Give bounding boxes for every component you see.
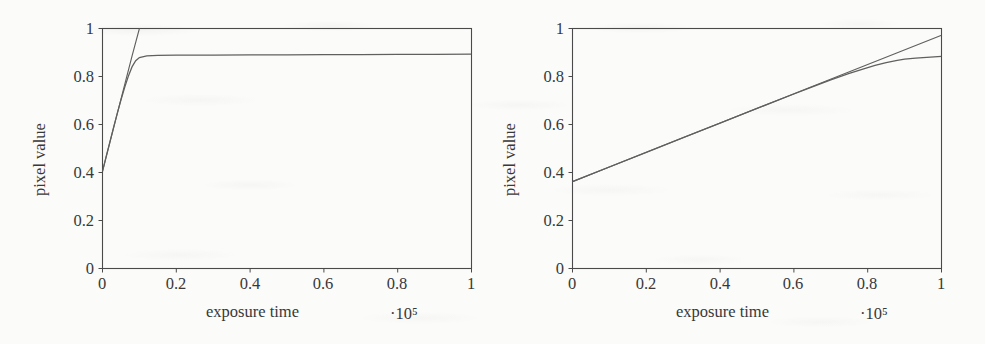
y-tick-label: 0.4 xyxy=(516,165,564,182)
y-axis-title: pixel value xyxy=(502,123,519,196)
series-line-saturating xyxy=(103,54,472,171)
x-tick-label: 0.4 xyxy=(700,276,740,293)
x-tick-label: 0.2 xyxy=(156,276,196,293)
x-tick-label: 1 xyxy=(451,276,491,293)
x-tick-label: 0.4 xyxy=(230,276,270,293)
axis-ticks xyxy=(99,29,472,273)
axis-frame xyxy=(573,29,942,269)
y-tick-label: 0.8 xyxy=(516,69,564,86)
y-tick-label: 0.2 xyxy=(516,213,564,230)
y-tick-label: 0.2 xyxy=(46,213,94,230)
figure-page: 1 0.8 0.6 0.4 0.2 0 0 0.2 0.4 0.6 0.8 1 … xyxy=(0,0,985,344)
x-tick-label: 0.6 xyxy=(773,276,813,293)
x-axis-title: exposure time xyxy=(676,304,769,321)
axis-ticks xyxy=(569,29,942,273)
x-tick-label: 0.6 xyxy=(303,276,343,293)
axis-frame xyxy=(103,29,472,269)
series-line-saturating xyxy=(573,56,942,181)
y-tick-label: 0.6 xyxy=(46,117,94,134)
y-tick-label: 1 xyxy=(526,21,564,38)
y-tick-label: 0.4 xyxy=(46,165,94,182)
x-tick-label: 0.8 xyxy=(847,276,887,293)
y-axis-title: pixel value xyxy=(32,123,49,196)
x-tick-label: 1 xyxy=(921,276,961,293)
x-axis-exponent-label: ·10⁵ xyxy=(390,306,418,323)
x-axis-title: exposure time xyxy=(206,304,299,321)
y-tick-label: 0.8 xyxy=(46,69,94,86)
x-tick-label: 0.2 xyxy=(626,276,666,293)
chart-left: 1 0.8 0.6 0.4 0.2 0 0 0.2 0.4 0.6 0.8 1 … xyxy=(0,0,492,344)
x-axis-exponent-label: ·10⁵ xyxy=(860,306,888,323)
y-tick-label: 0.6 xyxy=(516,117,564,134)
x-tick-label: 0 xyxy=(552,276,592,293)
chart-right: 1 0.8 0.6 0.4 0.2 0 0 0.2 0.4 0.6 0.8 1 … xyxy=(492,0,985,344)
y-tick-label: 1 xyxy=(56,21,94,38)
x-tick-label: 0 xyxy=(82,276,122,293)
x-tick-label: 0.8 xyxy=(377,276,417,293)
